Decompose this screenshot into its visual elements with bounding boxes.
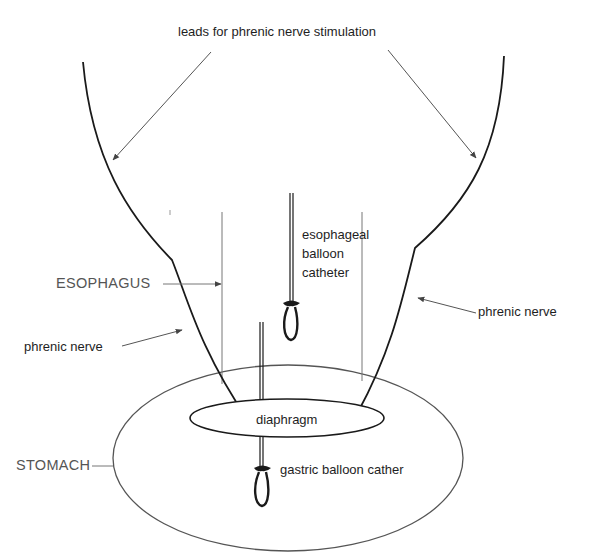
gastric-balloon-catheter-label: gastric balloon cather xyxy=(280,462,404,477)
esophagus-label: ESOPHAGUS xyxy=(56,276,151,291)
phrenic-nerve-left-curve xyxy=(83,62,248,420)
esophageal-balloon-catheter xyxy=(283,193,300,340)
esophageal-catheter-line1: esophageal xyxy=(302,225,369,244)
esophageal-catheter-line3: catheter xyxy=(302,263,369,282)
phrenic-nerve-left-label: phrenic nerve xyxy=(24,339,103,354)
esophageal-balloon-catheter-label: esophageal balloon catheter xyxy=(302,225,369,282)
phrenic-nerve-right-curve xyxy=(358,56,504,412)
stomach-label: STOMACH xyxy=(16,458,90,473)
esophagus-opening-mask xyxy=(222,380,362,400)
leads-arrow-left xyxy=(113,52,211,160)
phrenic-nerve-right-label: phrenic nerve xyxy=(478,304,557,319)
diaphragm-label: diaphragm xyxy=(256,412,317,427)
phrenic-nerve-right-leader xyxy=(418,298,476,313)
esophageal-catheter-line2: balloon xyxy=(302,244,369,263)
leads-label: leads for phrenic nerve stimulation xyxy=(178,24,376,39)
phrenic-nerve-left-leader xyxy=(122,330,182,346)
leads-arrow-right xyxy=(388,50,476,158)
